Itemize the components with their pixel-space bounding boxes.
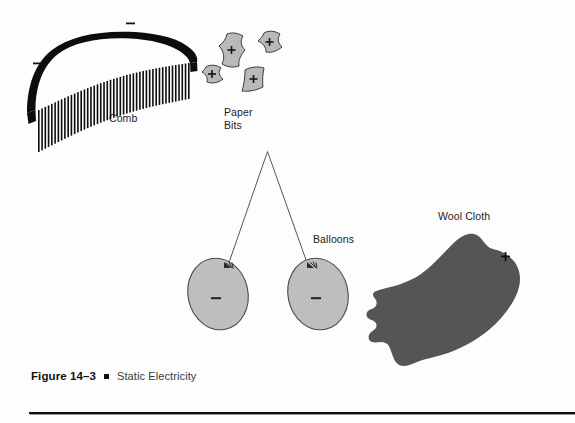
comb-tooth: [41, 108, 43, 150]
comb-tooth: [120, 77, 122, 116]
comb-tooth: [71, 95, 73, 136]
comb-tooth: [185, 64, 187, 100]
comb-tooth: [61, 99, 63, 140]
comb-tooth: [58, 101, 60, 142]
balloon-string-right: [268, 152, 309, 266]
comb-tooth: [172, 66, 174, 103]
wool-cloth-group: Wool Cloth: [367, 210, 521, 366]
paper-bits-label-line2: Bits: [224, 119, 242, 131]
comb-right-end: [190, 62, 198, 72]
comb-tooth: [136, 73, 138, 111]
wool-cloth-shape: [367, 234, 521, 366]
comb-tooth: [67, 96, 69, 137]
comb-tooth: [45, 107, 47, 149]
comb-label: Comb: [109, 112, 137, 124]
balloon-string-left: [228, 152, 268, 266]
comb-tooth: [87, 88, 89, 128]
comb-tooth: [142, 71, 144, 109]
paper-bits-group: Paper Bits: [202, 31, 282, 131]
comb-tooth: [97, 84, 99, 124]
comb-tooth: [77, 92, 79, 132]
comb-tooth: [149, 70, 151, 108]
comb-tooth: [175, 65, 177, 102]
comb-tooth: [51, 104, 53, 145]
comb-tooth: [84, 89, 86, 129]
comb-tooth: [93, 86, 95, 126]
comb-tooth: [106, 81, 108, 120]
comb-tooth: [126, 75, 128, 113]
comb-tooth: [133, 73, 135, 111]
comb-tooth: [139, 72, 141, 110]
comb-tooth: [181, 64, 183, 100]
comb-group: Comb: [27, 23, 198, 153]
minus-sign-comb-2: [126, 23, 135, 25]
balloons-label: Balloons: [313, 233, 354, 245]
figure-illustration: Comb: [0, 0, 575, 423]
comb-tooth: [168, 66, 170, 103]
comb-tooth: [155, 68, 157, 105]
comb-tooth: [48, 105, 50, 147]
comb-tooth: [100, 83, 102, 123]
comb-tooth: [178, 65, 180, 101]
balloon-left: [181, 253, 255, 336]
balloons-group: Balloons: [181, 152, 355, 336]
comb-tooth: [90, 87, 92, 127]
comb-tooth: [152, 69, 154, 106]
comb-tooth: [146, 70, 148, 108]
comb-tooth: [162, 67, 164, 104]
paper-bits-label-line1: Paper: [224, 106, 253, 118]
minus-sign-balloon-right: [311, 297, 321, 299]
comb-tooth: [165, 67, 167, 104]
minus-sign-balloon-left: [211, 297, 221, 299]
comb-tooth: [116, 78, 118, 117]
minus-sign-comb-1: [33, 63, 42, 65]
comb-tooth: [159, 68, 161, 105]
balloon-right: [281, 253, 355, 336]
comb-tooth: [64, 98, 66, 139]
wool-cloth-label: Wool Cloth: [438, 210, 490, 222]
comb-tooth: [103, 82, 105, 121]
comb-tooth: [38, 110, 40, 152]
comb-tooth: [129, 74, 131, 112]
comb-tooth: [123, 76, 125, 115]
comb-tooth: [188, 63, 190, 99]
comb-tooth: [54, 102, 56, 143]
static-electricity-diagram: Comb: [0, 0, 575, 423]
comb-tooth: [74, 94, 76, 135]
comb-teeth: [38, 63, 190, 152]
comb-tooth: [80, 91, 82, 131]
